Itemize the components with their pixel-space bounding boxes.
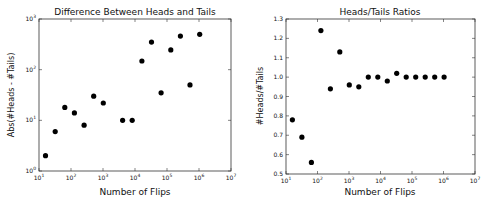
right-y-axis-label: #Heads/#Tails xyxy=(256,67,265,125)
tick-label: 0.7 xyxy=(273,131,283,138)
data-point xyxy=(413,75,418,80)
tick-label: 101 xyxy=(25,115,36,123)
data-point xyxy=(159,90,164,95)
tick-label: 0.9 xyxy=(273,93,283,100)
data-point xyxy=(197,32,202,37)
tick-label: 102 xyxy=(25,65,36,73)
data-point xyxy=(139,58,144,63)
tick-label: 103 xyxy=(98,173,109,181)
data-point xyxy=(328,86,333,91)
data-point xyxy=(375,75,380,80)
left-chart: Difference Between Heads and Tails 10110… xyxy=(7,7,236,197)
data-point xyxy=(101,100,106,105)
tick-label: 103 xyxy=(25,14,36,22)
figure: Difference Between Heads and Tails 10110… xyxy=(0,0,489,200)
tick-label: 103 xyxy=(344,176,355,184)
data-point xyxy=(62,105,67,110)
data-point xyxy=(318,28,323,33)
data-point xyxy=(53,129,58,134)
data-point xyxy=(72,110,77,115)
tick-label: 104 xyxy=(375,176,386,184)
tick-label: 0.6 xyxy=(273,151,283,158)
tick-label: 1.2 xyxy=(273,34,283,41)
tick-label: 106 xyxy=(194,173,205,181)
data-point xyxy=(309,160,314,165)
right-chart: Heads/Tails Ratios 101102103104105106107… xyxy=(256,7,480,197)
right-plot-area xyxy=(286,19,475,174)
left-chart-title: Difference Between Heads and Tails xyxy=(54,7,216,17)
tick-label: 107 xyxy=(226,173,237,181)
tick-label: 105 xyxy=(162,173,173,181)
data-point xyxy=(168,47,173,52)
right-chart-title: Heads/Tails Ratios xyxy=(339,7,420,17)
right-x-ticks: 101102103104105106107 xyxy=(281,19,481,184)
data-point xyxy=(120,118,125,123)
tick-label: 105 xyxy=(407,176,418,184)
tick-label: 102 xyxy=(66,173,77,181)
tick-label: 106 xyxy=(438,176,449,184)
data-point xyxy=(187,82,192,87)
left-y-ticks: 100101102103 xyxy=(25,14,231,174)
data-point xyxy=(356,84,361,89)
left-x-axis-label: Number of Flips xyxy=(99,187,170,197)
left-plot-area xyxy=(39,19,231,171)
data-point xyxy=(366,75,371,80)
right-x-axis-label: Number of Flips xyxy=(344,187,415,197)
left-y-axis-label: Abs(#Heads - #Tails) xyxy=(7,53,16,138)
data-point xyxy=(82,123,87,128)
tick-label: 100 xyxy=(25,166,36,174)
right-data-points xyxy=(290,28,447,165)
tick-label: 101 xyxy=(34,173,45,181)
data-point xyxy=(394,71,399,76)
data-point xyxy=(404,75,409,80)
tick-label: 1.0 xyxy=(273,73,283,80)
tick-label: 0.5 xyxy=(273,170,283,177)
tick-label: 0.8 xyxy=(273,112,283,119)
data-point xyxy=(347,82,352,87)
tick-label: 102 xyxy=(312,176,323,184)
left-data-points xyxy=(43,32,202,159)
data-point xyxy=(130,118,135,123)
right-y-ticks: 0.50.60.70.80.91.01.11.21.3 xyxy=(273,15,475,177)
left-x-ticks: 101102103104105106107 xyxy=(34,19,237,181)
data-point xyxy=(149,40,154,45)
data-point xyxy=(432,75,437,80)
data-point xyxy=(178,34,183,39)
tick-label: 1.3 xyxy=(273,15,283,22)
tick-label: 104 xyxy=(130,173,141,181)
data-point xyxy=(43,153,48,158)
tick-label: 107 xyxy=(470,176,481,184)
data-point xyxy=(299,135,304,140)
data-point xyxy=(442,75,447,80)
data-point xyxy=(385,78,390,83)
data-point xyxy=(290,117,295,122)
data-point xyxy=(337,49,342,54)
tick-label: 101 xyxy=(281,176,292,184)
tick-label: 1.1 xyxy=(273,54,283,61)
data-point xyxy=(91,94,96,99)
data-point xyxy=(423,75,428,80)
